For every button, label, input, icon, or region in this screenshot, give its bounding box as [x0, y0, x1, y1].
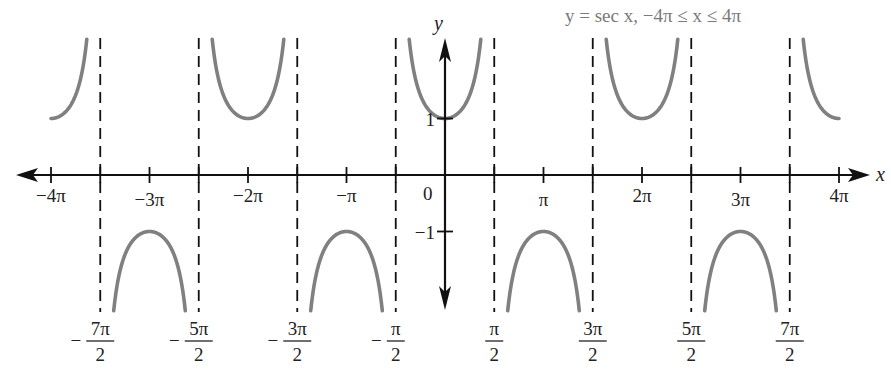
y-axis-label: y — [432, 12, 443, 35]
x-tick-label: −3π — [135, 189, 165, 210]
x-tick-label: −π — [336, 185, 357, 206]
x-tick-label: 3π — [731, 189, 751, 210]
x-tick-label: 4π — [829, 185, 849, 206]
asymptote-label: 5π2 — [677, 318, 705, 365]
asymptote-label: 7π2− — [71, 318, 115, 365]
secant-branch — [114, 232, 186, 311]
x-tick-label: −2π — [233, 185, 263, 206]
y-tick-label: −1 — [415, 222, 435, 243]
fraction-numerator: π — [489, 318, 499, 339]
fraction-numerator: 3π — [288, 318, 308, 339]
fraction-denominator: 2 — [391, 344, 401, 365]
x-axis-label: x — [875, 163, 885, 185]
fraction-denominator: 2 — [687, 344, 697, 365]
fraction-numerator: 7π — [91, 318, 111, 339]
asymptote-label: 5π2− — [169, 318, 213, 365]
secant-branch — [51, 39, 87, 118]
secant-graph: −4π−3π−2π−π0π2π3π4π1−17π2−5π2−3π2−π2−π23… — [0, 0, 891, 377]
fraction-sign: − — [371, 330, 382, 351]
fraction-numerator: 3π — [583, 318, 603, 339]
fraction-numerator: 5π — [189, 318, 209, 339]
secant-branch — [606, 39, 678, 118]
fraction-numerator: 7π — [780, 318, 800, 339]
y-tick-label: 1 — [426, 109, 436, 130]
asymptote-label: 3π2 — [579, 318, 607, 365]
x-tick-label: −4π — [36, 185, 66, 206]
asymptote-label: π2 — [485, 318, 503, 365]
secant-branch — [311, 232, 383, 311]
fraction-denominator: 2 — [293, 344, 303, 365]
fraction-denominator: 2 — [96, 344, 106, 365]
fraction-denominator: 2 — [785, 344, 795, 365]
fraction-denominator: 2 — [588, 344, 598, 365]
asymptote-label: 7π2 — [776, 318, 804, 365]
chart-title: y = sec x, −4π ≤ x ≤ 4π — [565, 5, 741, 26]
fraction-numerator: π — [391, 318, 401, 339]
asymptote-label: π2− — [371, 318, 405, 365]
fraction-numerator: 5π — [682, 318, 702, 339]
secant-branch — [508, 232, 580, 311]
fraction-denominator: 2 — [490, 344, 500, 365]
fraction-sign: − — [268, 330, 279, 351]
x-tick-label: 0 — [423, 183, 433, 204]
axes — [16, 38, 870, 310]
fraction-sign: − — [169, 330, 180, 351]
secant-branch — [803, 39, 839, 118]
secant-branch — [212, 39, 284, 118]
fraction-denominator: 2 — [194, 344, 204, 365]
secant-branch — [705, 232, 777, 311]
x-tick-label: 2π — [632, 185, 652, 206]
x-tick-label: π — [539, 189, 549, 210]
asymptote-label: 3π2− — [268, 318, 312, 365]
fraction-sign: − — [71, 330, 82, 351]
